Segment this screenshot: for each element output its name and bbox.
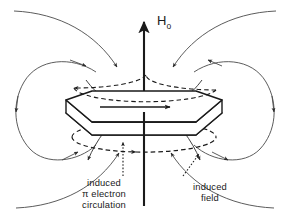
applied-field-label-sub: o [166, 21, 171, 31]
figure-canvas: Ho induced πelectron circulation induced… [0, 0, 290, 219]
lower-ellipse-front-right [136, 137, 216, 152]
induced-field-caption-line1: induced [193, 181, 227, 192]
outer-arc-top-right [173, 11, 276, 67]
pi-circulation-caption-line1: induced [87, 177, 121, 188]
field-loop-left-arrow-top [70, 60, 86, 66]
field-loop-right-arrow-top [208, 60, 222, 66]
applied-field-label-main: H [157, 13, 166, 28]
pi-circulation-caption-line2: πelectron [82, 188, 126, 199]
upper-ellipse-back-arrowed [74, 75, 146, 88]
pi-symbol: π [82, 188, 89, 199]
pi-circulation-caption-line3: circulation [82, 199, 126, 210]
leader-lines [123, 142, 199, 176]
right-leader-dotted [183, 154, 199, 176]
upper-ellipse-back [146, 75, 216, 90]
induced-field-caption-line2: field [201, 192, 219, 203]
lower-ellipse-front-left [72, 137, 136, 152]
outer-arc-top-left [14, 11, 117, 67]
ring-current-figure: Ho induced πelectron circulation induced… [0, 0, 290, 219]
electron-word: electron [91, 188, 126, 199]
near-field-lower-left [88, 132, 104, 160]
applied-field-label: Ho [157, 13, 171, 31]
